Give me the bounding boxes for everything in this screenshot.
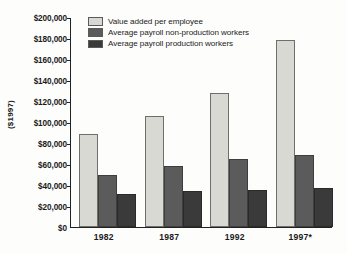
- y-axis-tick-label: $180,000: [25, 35, 67, 44]
- y-axis-tick-label: $120,000: [25, 98, 67, 107]
- y-axis-tick-mark: [67, 60, 71, 61]
- bar: [79, 134, 98, 227]
- legend-item: Average payroll non-production workers: [88, 28, 249, 37]
- y-axis-tick-mark: [67, 81, 71, 82]
- bar: [145, 116, 164, 227]
- bar: [314, 188, 333, 227]
- bar: [210, 93, 229, 227]
- bar-group: [79, 134, 136, 227]
- legend-swatch: [88, 17, 103, 26]
- bar: [295, 155, 314, 227]
- bar: [164, 166, 183, 227]
- bar-group: [145, 116, 202, 227]
- chart-legend: Value added per employeeAverage payroll …: [88, 17, 249, 48]
- bar-group: [210, 93, 267, 227]
- bar: [117, 194, 136, 227]
- y-axis-tick-mark: [67, 165, 71, 166]
- bar: [183, 191, 202, 227]
- y-axis-tick-label: $160,000: [25, 56, 67, 65]
- y-axis-title: ($1997): [6, 84, 15, 146]
- legend-label: Average payroll non-production workers: [108, 28, 249, 37]
- bar: [276, 40, 295, 227]
- x-axis-tick-label: 1997*: [260, 232, 340, 242]
- y-axis-tick-label: $80,000: [25, 140, 67, 149]
- y-axis-tick-label: $40,000: [25, 182, 67, 191]
- y-axis-tick-label: $140,000: [25, 77, 67, 86]
- bar-group: [276, 40, 333, 227]
- legend-item: Value added per employee: [88, 17, 249, 26]
- legend-label: Average payroll production workers: [108, 39, 233, 48]
- y-axis-tick-mark: [67, 186, 71, 187]
- y-axis-tick-label: $20,000: [25, 203, 67, 212]
- bar: [248, 190, 267, 227]
- y-axis-tick-label: $0: [25, 224, 67, 233]
- legend-label: Value added per employee: [108, 17, 203, 26]
- y-axis-tick-label: $200,000: [25, 14, 67, 23]
- plot-area: $0$20,000$40,000$60,000$80,000$100,000$1…: [70, 18, 332, 228]
- y-axis-tick-label: $60,000: [25, 161, 67, 170]
- bar: [229, 159, 248, 227]
- legend-item: Average payroll production workers: [88, 39, 249, 48]
- bar: [98, 175, 117, 228]
- y-axis-tick-mark: [67, 18, 71, 19]
- y-axis-tick-mark: [67, 39, 71, 40]
- y-axis-tick-label: $100,000: [25, 119, 67, 128]
- y-axis-tick-mark: [67, 144, 71, 145]
- y-axis-tick-mark: [67, 207, 71, 208]
- y-axis-tick-mark: [67, 123, 71, 124]
- legend-swatch: [88, 28, 103, 37]
- bar-chart: ($1997) $0$20,000$40,000$60,000$80,000$1…: [0, 0, 347, 253]
- y-axis-tick-mark: [67, 102, 71, 103]
- legend-swatch: [88, 40, 103, 49]
